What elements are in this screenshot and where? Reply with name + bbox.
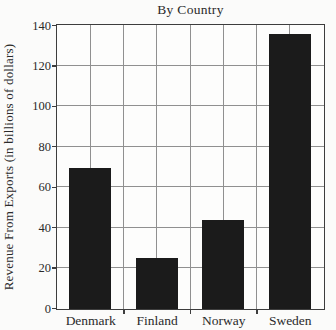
y-tick-mark <box>52 25 56 26</box>
x-tick-label-sweden: Sweden <box>245 313 335 329</box>
bar-chart: By Country Revenue From Exports (in bill… <box>0 0 336 330</box>
y-tick-mark <box>52 106 56 107</box>
y-tick-mark <box>52 267 56 268</box>
y-tick-label-80: 80 <box>0 140 51 154</box>
y-tick-label-140: 140 <box>0 19 51 33</box>
y-tick-label-20: 20 <box>0 261 51 275</box>
y-tick-mark <box>52 146 56 147</box>
y-tick-label-100: 100 <box>0 99 51 113</box>
y-tick-label-40: 40 <box>0 221 51 235</box>
x-tick-mark <box>256 310 257 314</box>
bar-denmark <box>69 168 111 310</box>
y-tick-mark <box>52 227 56 228</box>
x-tick-mark <box>190 310 191 314</box>
chart-title: By Country <box>56 2 325 18</box>
bar-finland <box>136 258 178 309</box>
y-axis-label: Revenue From Exports (in billions of dol… <box>1 44 17 291</box>
plot-area <box>56 24 325 310</box>
y-tick-mark <box>52 308 56 309</box>
x-tick-mark <box>123 310 124 314</box>
y-tick-mark <box>52 187 56 188</box>
y-tick-label-120: 120 <box>0 59 51 73</box>
y-tick-label-60: 60 <box>0 180 51 194</box>
y-tick-mark <box>52 65 56 66</box>
y-tick-label-0: 0 <box>0 302 51 316</box>
bar-norway <box>202 220 244 309</box>
bar-sweden <box>269 34 311 309</box>
